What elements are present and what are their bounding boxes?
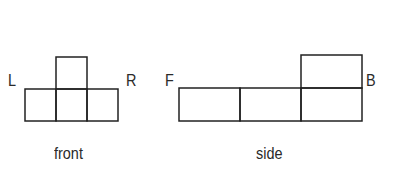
- front-bottom-left-square: [25, 89, 56, 121]
- front-caption: front: [54, 145, 83, 162]
- front-bottom-right-square: [87, 89, 118, 121]
- front-bottom-middle-square: [56, 89, 87, 121]
- side-right-label: B: [366, 72, 376, 89]
- side-left-label: F: [165, 72, 174, 89]
- side-bottom-middle-rect: [240, 88, 301, 121]
- front-view-drawing: [25, 57, 118, 121]
- front-top-square: [56, 57, 87, 89]
- front-right-label: R: [126, 72, 136, 89]
- side-view-drawing: [179, 55, 362, 121]
- front-left-label: L: [8, 72, 16, 89]
- side-bottom-right-rect: [301, 88, 362, 121]
- side-bottom-left-rect: [179, 88, 240, 121]
- side-top-rect: [301, 55, 362, 88]
- side-caption: side: [256, 145, 283, 162]
